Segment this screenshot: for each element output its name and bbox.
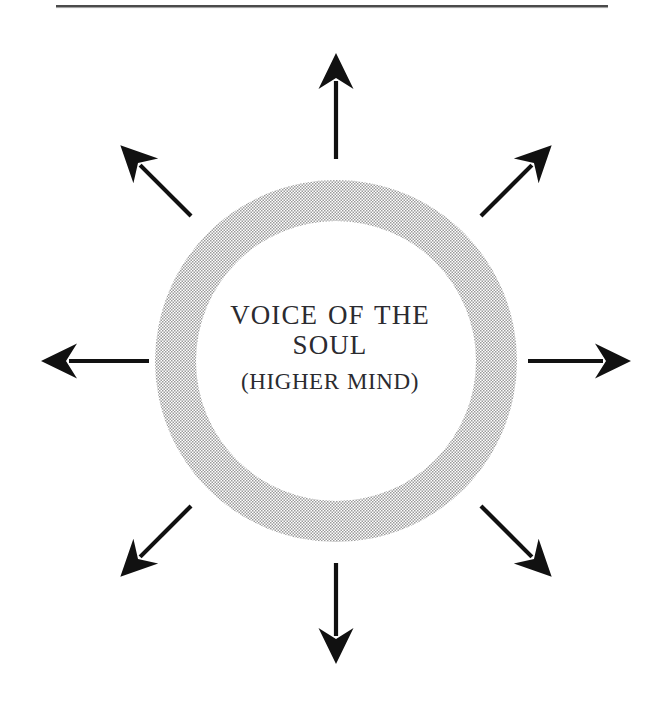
diagram-canvas	[0, 0, 660, 707]
soul-ring	[0, 0, 660, 707]
